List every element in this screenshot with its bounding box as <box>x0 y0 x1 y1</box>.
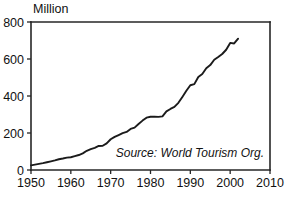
x-tick-label: 1990 <box>176 176 204 190</box>
y-tick-label: 400 <box>3 90 24 104</box>
y-tick-label: 200 <box>3 127 24 141</box>
y-tick-label: 800 <box>3 16 24 30</box>
x-tick-label: 1960 <box>57 176 85 190</box>
y-axis-unit-label: Million <box>33 2 68 16</box>
y-tick-label: 600 <box>3 53 24 67</box>
x-tick-label: 2000 <box>216 176 244 190</box>
x-tick-label: 1980 <box>137 176 165 190</box>
x-tick-label: 2010 <box>256 176 284 190</box>
x-tick-label: 1970 <box>97 176 125 190</box>
tourist-arrivals-chart: Million 0200400600800 195019601970198019… <box>0 0 290 200</box>
x-tick-label: 1950 <box>17 176 45 190</box>
source-attribution-label: Source: World Tourism Org. <box>116 146 264 160</box>
chart-canvas: Million 0200400600800 195019601970198019… <box>0 0 290 200</box>
